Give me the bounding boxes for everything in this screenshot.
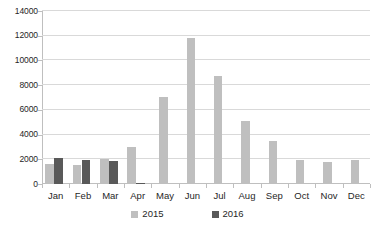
bar-group-mar (97, 11, 124, 184)
x-axis-label-sep: Sep (261, 190, 288, 201)
x-axis-label-jan: Jan (42, 190, 69, 201)
y-tick-label-10000: 10000 (0, 56, 38, 65)
bar-2015-may (159, 97, 168, 184)
bar-2015-nov (323, 162, 332, 184)
bar-group-jul (206, 11, 233, 184)
bar-2016-feb (82, 160, 91, 184)
x-axis-label-oct: Oct (288, 190, 315, 201)
x-tick-mark-dec (343, 184, 344, 188)
legend-swatch-2015 (131, 211, 138, 218)
legend-swatch-2016 (212, 211, 219, 218)
bar-2015-oct (296, 160, 305, 184)
bar-group-jan (42, 11, 69, 184)
x-tick-mark-nov (315, 184, 316, 188)
bar-2015-aug (241, 121, 250, 184)
legend-item-2015[interactable]: 2015 (131, 209, 163, 219)
bar-2015-sep (269, 141, 278, 184)
y-tick-label-12000: 12000 (0, 31, 38, 40)
x-axis-label-feb: Feb (69, 190, 96, 201)
x-tick-mark-sep (261, 184, 262, 188)
y-tick-label-4000: 4000 (0, 130, 38, 139)
bar-2015-jun (187, 38, 196, 184)
y-tick-label-14000: 14000 (0, 7, 38, 16)
bar-group-aug (233, 11, 260, 184)
x-axis-label-dec: Dec (343, 190, 370, 201)
x-axis: JanFebMarAprMayJunJulAugSepOctNovDec (42, 184, 370, 206)
x-tick-mark-jul (206, 184, 207, 188)
bar-2015-apr (127, 147, 136, 184)
bar-chart: 02000400060008000100001200014000 JanFebM… (0, 0, 375, 228)
x-axis-label-may: May (151, 190, 178, 201)
x-tick-mark-feb (69, 184, 70, 188)
y-axis-labels: 02000400060008000100001200014000 (0, 0, 38, 228)
x-axis-label-jun: Jun (179, 190, 206, 201)
bar-2015-mar (100, 159, 109, 184)
bar-group-dec (343, 11, 370, 184)
chart-legend: 20152016 (0, 206, 375, 222)
bar-group-oct (288, 11, 315, 184)
legend-label-2016: 2016 (223, 209, 244, 219)
x-axis-label-jul: Jul (206, 190, 233, 201)
bar-2016-mar (109, 161, 118, 184)
y-tick-label-0: 0 (0, 180, 38, 189)
x-axis-label-mar: Mar (97, 190, 124, 201)
x-axis-label-aug: Aug (233, 190, 260, 201)
x-axis-label-apr: Apr (124, 190, 151, 201)
bars-layer (42, 11, 370, 184)
y-tick-label-2000: 2000 (0, 155, 38, 164)
y-tick-label-6000: 6000 (0, 105, 38, 114)
bar-group-may (151, 11, 178, 184)
bar-2015-jan (45, 164, 54, 184)
legend-label-2015: 2015 (142, 209, 163, 219)
bar-2016-jan (54, 158, 63, 184)
x-tick-mark-mar (97, 184, 98, 188)
x-axis-label-nov: Nov (315, 190, 342, 201)
plot-area (42, 11, 370, 184)
bar-group-nov (315, 11, 342, 184)
bar-group-jun (179, 11, 206, 184)
bar-2015-dec (351, 160, 360, 184)
x-tick-mark-aug (233, 184, 234, 188)
y-tick-label-8000: 8000 (0, 81, 38, 90)
x-tick-mark-end (370, 184, 371, 188)
x-tick-mark-jun (179, 184, 180, 188)
bar-2015-jul (214, 76, 223, 184)
x-tick-mark-oct (288, 184, 289, 188)
x-tick-mark-may (151, 184, 152, 188)
bar-group-feb (69, 11, 96, 184)
x-tick-mark-apr (124, 184, 125, 188)
bar-group-apr (124, 11, 151, 184)
legend-item-2016[interactable]: 2016 (212, 209, 244, 219)
x-tick-mark-jan (42, 184, 43, 188)
bar-2015-feb (73, 165, 82, 184)
bar-group-sep (261, 11, 288, 184)
